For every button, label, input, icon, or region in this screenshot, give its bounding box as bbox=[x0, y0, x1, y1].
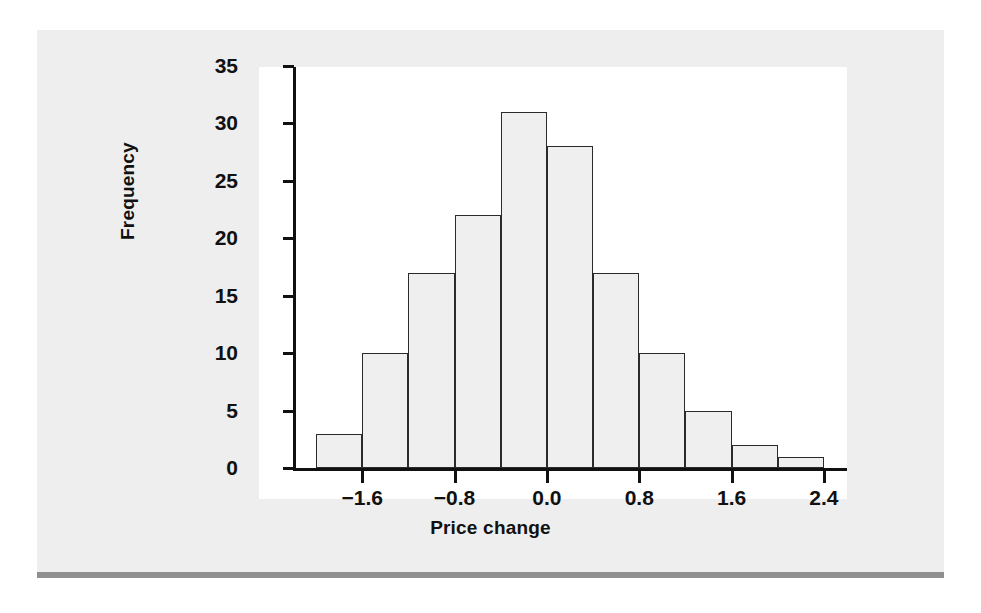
histogram-bar bbox=[408, 273, 454, 468]
histogram-bar bbox=[316, 434, 362, 468]
y-axis-tick-label: 10 bbox=[202, 342, 238, 363]
y-axis-tick-label: 30 bbox=[202, 112, 238, 133]
histogram-bar bbox=[362, 353, 408, 468]
figure-panel: Frequency 05101520253035 −1.6−0.80.00.81… bbox=[37, 30, 944, 575]
x-axis-tick bbox=[638, 471, 641, 483]
x-axis-tick-label: 0.8 bbox=[604, 487, 674, 508]
histogram-bar bbox=[501, 112, 547, 468]
y-axis-tick bbox=[283, 352, 294, 355]
x-axis-line bbox=[293, 468, 847, 471]
x-axis-tick bbox=[731, 471, 734, 483]
x-axis-tick-label: 1.6 bbox=[697, 487, 767, 508]
bottom-divider-rule bbox=[37, 572, 944, 578]
y-axis-tick bbox=[283, 180, 294, 183]
y-axis-tick-label: 25 bbox=[202, 170, 238, 191]
y-axis-title: Frequency bbox=[117, 142, 139, 240]
histogram-bar bbox=[455, 215, 501, 468]
x-axis-tick-label: −1.6 bbox=[327, 487, 397, 508]
x-axis-tick-label: −0.8 bbox=[420, 487, 490, 508]
x-axis-tick bbox=[823, 471, 826, 483]
histogram-bar bbox=[593, 273, 639, 468]
x-axis-title: Price change bbox=[37, 517, 944, 539]
histogram-bar bbox=[732, 445, 778, 468]
x-axis-tick bbox=[361, 471, 364, 483]
histogram-bar bbox=[685, 411, 731, 468]
y-axis-tick bbox=[283, 295, 294, 298]
histogram-bar bbox=[639, 353, 685, 468]
y-axis-tick bbox=[283, 410, 294, 413]
histogram-bars bbox=[259, 67, 847, 468]
x-axis-tick-label: 0.0 bbox=[512, 487, 582, 508]
plot-area: −1.6−0.80.00.81.62.4 bbox=[259, 67, 847, 499]
histogram-bar bbox=[778, 457, 824, 468]
y-axis-tick bbox=[283, 237, 294, 240]
x-axis-tick bbox=[546, 471, 549, 483]
y-axis-tick-label: 5 bbox=[202, 400, 238, 421]
y-axis-tick bbox=[283, 467, 294, 470]
y-axis-tick-label: 15 bbox=[202, 285, 238, 306]
y-axis-tick-labels: 05101520253035 bbox=[182, 67, 238, 477]
y-axis-tick-label: 0 bbox=[202, 457, 238, 478]
x-axis-tick-label: 2.4 bbox=[789, 487, 859, 508]
y-axis-tick-label: 20 bbox=[202, 227, 238, 248]
x-axis-tick bbox=[454, 471, 457, 483]
y-axis-tick-label: 35 bbox=[202, 55, 238, 76]
histogram-bar bbox=[547, 146, 593, 468]
y-axis-tick bbox=[283, 65, 294, 68]
y-axis-tick bbox=[283, 122, 294, 125]
